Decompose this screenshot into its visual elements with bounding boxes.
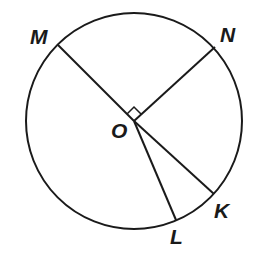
label-n: N <box>220 23 236 46</box>
radius-om <box>58 45 134 121</box>
circle-diagram: M N O K L <box>0 0 256 256</box>
right-angle-marker <box>127 107 141 114</box>
label-m: M <box>30 25 48 48</box>
label-l: L <box>170 225 183 248</box>
radius-on <box>134 47 215 121</box>
label-o: O <box>111 119 127 142</box>
radius-ok <box>134 121 214 194</box>
label-k: K <box>214 199 231 222</box>
radius-ol <box>134 121 176 220</box>
